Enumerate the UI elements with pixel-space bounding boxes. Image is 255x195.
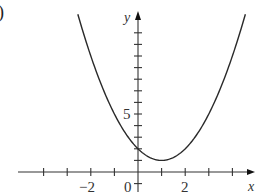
x-axis-label: x: [247, 179, 255, 194]
tick-label-2: 2: [181, 179, 189, 195]
x-axis-arrow-icon: [247, 169, 255, 175]
parabola-curve: [78, 14, 246, 160]
origin-label: 0: [124, 179, 132, 195]
tick-label-5: 5: [123, 106, 131, 122]
y-axis-arrow-icon: [135, 11, 141, 20]
y-axis-label: y: [122, 10, 131, 25]
tick-label-neg2: −2: [79, 179, 95, 195]
parabola-graph: y x −2 2 5 0: [0, 0, 255, 195]
